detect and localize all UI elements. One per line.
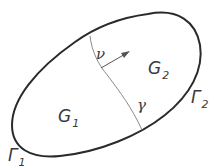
diagram-canvas [0, 0, 218, 168]
domain-diagram: ν G2 G1 γ Γ2 Γ1 [0, 0, 218, 168]
boundary-gamma1-label: Γ1 [8, 147, 25, 164]
interface-label: γ [137, 97, 146, 113]
outer-boundary [12, 13, 201, 157]
boundary-gamma2-label: Γ2 [191, 89, 208, 106]
region-g1-label: G1 [58, 108, 79, 125]
normal-arrow-head [121, 51, 130, 58]
region-g2-label: G2 [148, 60, 169, 77]
normal-label: ν [96, 46, 105, 62]
